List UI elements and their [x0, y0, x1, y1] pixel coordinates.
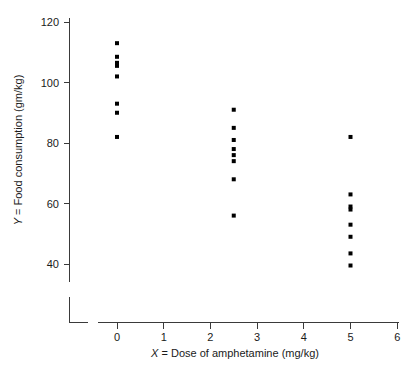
data-point: [115, 55, 119, 59]
data-point: [349, 264, 353, 268]
axis-break-stub: [70, 297, 89, 323]
x-tick-label: 4: [301, 331, 307, 343]
data-point: [115, 64, 119, 68]
scatter-plot-figure: 406080100120 0123456 X = Dose of ampheta…: [0, 0, 411, 369]
data-point: [115, 102, 119, 106]
x-axis-ticks: 0123456: [114, 323, 400, 344]
data-point: [232, 214, 236, 218]
data-point: [349, 135, 353, 139]
x-tick-label: 6: [394, 331, 400, 343]
data-point: [115, 111, 119, 115]
data-point: [349, 208, 353, 212]
x-tick-label: 1: [161, 331, 167, 343]
data-point: [115, 135, 119, 139]
data-point: [232, 108, 236, 112]
data-point: [349, 251, 353, 255]
data-point: [232, 138, 236, 142]
data-point: [349, 235, 353, 239]
y-tick-label: 100: [41, 77, 59, 89]
data-point: [232, 159, 236, 163]
data-point: [232, 153, 236, 157]
x-tick-label: 0: [114, 331, 120, 343]
y-tick-label: 40: [47, 258, 59, 270]
data-point: [349, 192, 353, 196]
data-point: [115, 74, 119, 78]
data-point: [232, 177, 236, 181]
data-point: [232, 147, 236, 151]
y-tick-label: 120: [41, 16, 59, 28]
x-tick-label: 2: [207, 331, 213, 343]
y-tick-label: 80: [47, 137, 59, 149]
data-point: [349, 223, 353, 227]
x-tick-label: 3: [254, 331, 260, 343]
data-point: [115, 41, 119, 45]
x-axis-title: X = Dose of amphetamine (mg/kg): [150, 347, 319, 359]
plot-canvas: 406080100120 0123456 X = Dose of ampheta…: [0, 0, 411, 369]
y-axis-ticks: 406080100120: [41, 16, 70, 270]
y-tick-label: 60: [47, 198, 59, 210]
y-axis-title: Y = Food consumption (gm/kg): [12, 75, 24, 226]
x-tick-label: 5: [347, 331, 353, 343]
data-points-layer: [115, 41, 353, 267]
data-point: [232, 126, 236, 130]
